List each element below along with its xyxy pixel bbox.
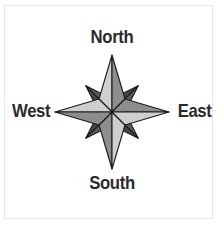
compass-point-west <box>55 99 112 125</box>
direction-label-west: West <box>12 101 50 120</box>
direction-label-east: East <box>178 101 212 120</box>
compass-rose-figure: North South West East <box>0 0 224 230</box>
direction-label-south: South <box>13 173 210 192</box>
compass-point-east <box>112 99 169 125</box>
direction-label-north: North <box>13 27 210 46</box>
